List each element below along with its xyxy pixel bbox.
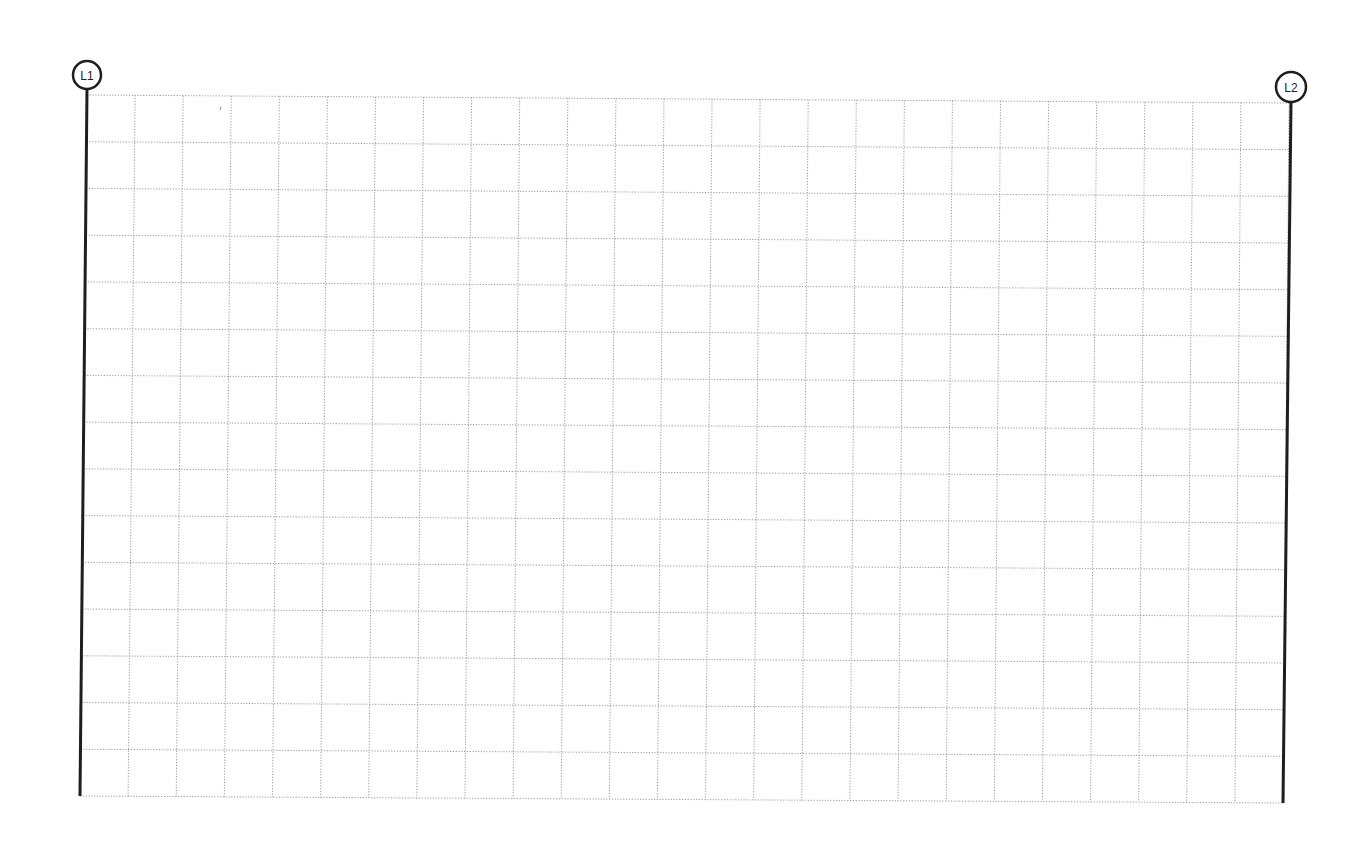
grid-column-line (657, 99, 664, 800)
grid-column-line (1139, 102, 1145, 802)
grid-column-line (1235, 103, 1241, 803)
grid-column-line (465, 98, 472, 799)
grid-diagram: L1L2 (0, 0, 1363, 849)
grid-row-line (86, 235, 1288, 243)
gridline-l1-line (80, 89, 87, 796)
grid-row-line (80, 796, 1283, 803)
grid-column-line (994, 101, 1000, 801)
dotted-grid (80, 95, 1289, 803)
grid-column-line (1042, 101, 1048, 801)
grid-column-line (898, 100, 904, 800)
grid-column-line (176, 96, 183, 797)
grid-row-line (87, 95, 1289, 103)
grid-row-line (85, 329, 1287, 337)
grid-column-line (946, 101, 952, 801)
grid-row-line (82, 609, 1285, 616)
grid-column-line (1187, 102, 1193, 802)
grid-column-line (802, 100, 808, 800)
grid-row-line (80, 749, 1283, 756)
gridline-bubble-label: L2 (1284, 81, 1298, 95)
grid-row-line (84, 375, 1286, 383)
grid-column-line (850, 100, 856, 800)
paper-speck (220, 107, 221, 110)
grid-row-line (87, 142, 1289, 150)
grid-row-line (84, 422, 1286, 430)
gridline-bubble-label: L1 (80, 69, 94, 83)
grid-column-line (321, 97, 328, 798)
grid-row-line (86, 188, 1288, 196)
grid-row-line (83, 469, 1286, 476)
grid-column-line (1091, 102, 1097, 802)
grid-column-line (417, 97, 424, 798)
grid-row-line (81, 703, 1284, 710)
grid-row-line (81, 656, 1284, 663)
grid-column-line (706, 99, 712, 799)
gridline-axes: L1L2 (73, 61, 1306, 803)
grid-column-line (224, 96, 231, 797)
grid-row-line (83, 516, 1286, 523)
grid-column-line (754, 99, 760, 799)
gridline-l2-line (1283, 102, 1291, 803)
grid-column-line (128, 95, 135, 796)
grid-column-line (272, 96, 279, 797)
grid-column-line (369, 97, 376, 798)
grid-row-line (82, 562, 1285, 569)
grid-column-line (561, 98, 568, 799)
grid-row-line (85, 282, 1287, 290)
grid-column-line (513, 98, 520, 799)
grid-column-line (609, 99, 616, 800)
